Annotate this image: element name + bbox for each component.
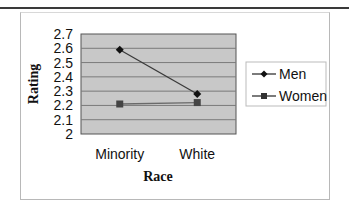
- y-tick-label: 2.2: [54, 97, 74, 113]
- y-tick-label: 2.4: [54, 69, 74, 85]
- x-axis-categories: MinorityWhite: [95, 146, 215, 162]
- y-axis-title: Rating: [26, 64, 41, 104]
- square-marker-icon: [194, 99, 201, 106]
- square-marker-icon: [116, 101, 123, 108]
- legend-label-women: Women: [279, 88, 327, 104]
- y-tick-label: 2.7: [54, 26, 74, 42]
- legend-label-men: Men: [279, 66, 306, 82]
- y-axis-ticks: 22.12.22.32.42.52.62.7: [54, 26, 74, 142]
- x-axis-title: Race: [143, 169, 173, 184]
- y-tick-label: 2.5: [54, 55, 74, 71]
- x-category-label: Minority: [95, 146, 144, 162]
- y-tick-label: 2.6: [54, 40, 74, 56]
- x-category-label: White: [179, 146, 215, 162]
- y-tick-label: 2.3: [54, 83, 74, 99]
- y-tick-label: 2.1: [54, 112, 74, 128]
- line-chart: 22.12.22.32.42.52.62.7 MinorityWhite Rat…: [0, 0, 349, 213]
- legend: Men Women: [246, 62, 327, 106]
- plot-area: [81, 34, 236, 134]
- y-tick-label: 2: [65, 126, 73, 142]
- square-marker-icon: [261, 93, 267, 99]
